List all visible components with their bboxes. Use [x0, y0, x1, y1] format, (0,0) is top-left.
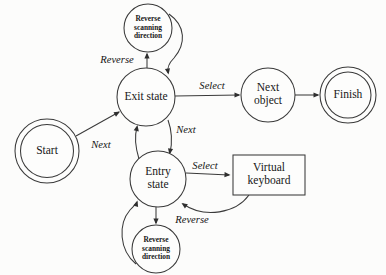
node-entry-state[interactable]: Entrystate	[130, 151, 186, 207]
node-label-text: keyboard	[248, 174, 291, 187]
edge-path	[76, 112, 119, 136]
arrow-head-icon	[144, 53, 149, 59]
edge-label-start-to-exit: Next	[90, 139, 111, 150]
edge-label-exit-to-entry: Next	[175, 124, 196, 135]
edge-label-virtual-keyboard-to-entry: Reverse	[174, 214, 209, 225]
edge-path	[175, 95, 239, 96]
edges-layer	[76, 14, 320, 264]
node-exit-state[interactable]: Exit state	[117, 68, 175, 126]
edge-label-exit-to-next-object: Select	[199, 80, 225, 91]
node-start[interactable]: Start	[15, 119, 79, 183]
node-label-text: direction	[142, 252, 170, 261]
node-next-object[interactable]: Nextobject	[241, 68, 295, 122]
state-diagram: StartReversescanningdirectionExit stateE…	[0, 0, 386, 275]
edge-path	[136, 127, 139, 159]
node-label-text: Next	[257, 81, 280, 93]
arrow-head-icon	[224, 172, 230, 178]
edge-start-to-exit	[76, 109, 121, 136]
node-finish[interactable]: Finish	[320, 67, 376, 123]
arrow-head-icon	[153, 219, 158, 225]
node-label-text: state	[147, 178, 168, 190]
node-reverse-bottom[interactable]: Reversescanningdirection	[132, 225, 180, 273]
edge-label-entry-to-virtual-keyboard: Select	[192, 160, 218, 171]
edge-exit-to-reverse-top	[144, 53, 149, 69]
edge-entry-to-exit	[134, 124, 140, 159]
edge-path	[183, 195, 249, 213]
node-label-text: Entry	[145, 165, 171, 178]
node-label-text: direction	[134, 31, 162, 40]
edge-path	[168, 120, 171, 153]
node-label-text: Start	[36, 144, 59, 156]
nodes-layer: StartReversescanningdirectionExit stateE…	[15, 4, 376, 273]
edge-entry-to-virtual-keyboard	[186, 172, 231, 178]
arrow-head-icon	[314, 92, 320, 97]
arrow-head-icon	[235, 92, 241, 97]
edge-exit-to-entry	[167, 120, 173, 155]
edge-virtual-keyboard-to-entry	[180, 195, 249, 213]
edge-next-object-to-finish	[295, 92, 320, 97]
edge-exit-to-next-object	[175, 92, 241, 97]
edge-entry-to-reverse-bottom	[153, 207, 158, 225]
node-virtual-keyboard[interactable]: Virtualkeyboard	[233, 155, 305, 195]
node-label-text: Finish	[334, 88, 363, 100]
arrow-head-icon	[180, 201, 188, 209]
node-label-text: Exit state	[124, 90, 167, 102]
node-reverse-top[interactable]: Reversescanningdirection	[124, 4, 172, 52]
diagram-canvas: StartReversescanningdirectionExit stateE…	[0, 0, 386, 275]
edge-label-exit-to-reverse-top: Reverse	[99, 54, 134, 65]
node-label-text: object	[254, 94, 283, 107]
arrow-head-icon	[165, 68, 171, 75]
edge-path	[186, 173, 229, 175]
node-label-text: Virtual	[253, 161, 285, 173]
